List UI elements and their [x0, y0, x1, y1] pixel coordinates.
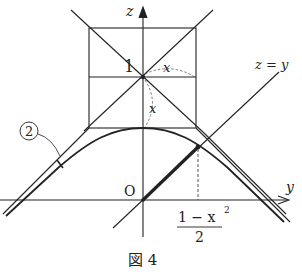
fraction-numerator: 1 − x: [178, 209, 216, 225]
envelope-left-outer: [3, 128, 89, 214]
point-one: [141, 75, 145, 79]
curve-2-marker-label: 2: [25, 124, 33, 139]
figure-caption: 図 4: [128, 251, 157, 269]
label-x-horizontal: x: [163, 60, 171, 75]
z-axis-label: z: [125, 3, 134, 19]
segment-thick: [143, 147, 198, 200]
label-x-vertical: x: [149, 101, 157, 116]
fraction-denominator: 2: [195, 229, 204, 245]
diagram-figure-4: z y O 1 x x z = y 2 1 − x 2 2 図 4: [0, 0, 302, 272]
curve-2-leader: [38, 134, 60, 156]
label-one: 1: [124, 57, 134, 76]
origin-label: O: [124, 183, 135, 199]
origin-point: [141, 198, 145, 202]
z-axis-arrow-icon: [139, 7, 147, 18]
line-label-z-equals-y: z = y: [254, 57, 289, 72]
envelope-right-outer: [196, 128, 290, 222]
y-axis-label: y: [285, 179, 295, 195]
fraction-exponent: 2: [224, 205, 230, 215]
intersection-point: [196, 145, 201, 150]
envelope-right-inner: [203, 132, 286, 214]
